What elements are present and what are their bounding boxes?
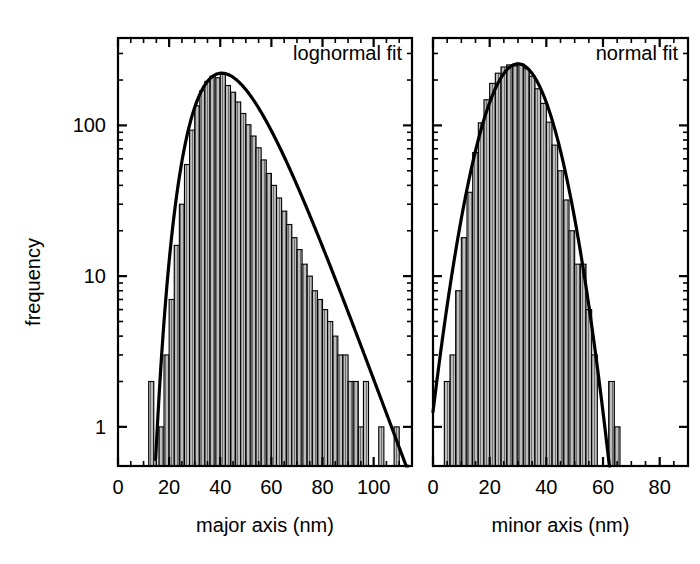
histogram-bar: [282, 211, 287, 466]
histogram-figure: 020406080100major axis (nm)lognormal fit…: [0, 0, 700, 564]
x-tick-label: 60: [592, 476, 614, 498]
histogram-bar: [580, 264, 586, 466]
y-tick-label: 1: [95, 416, 106, 438]
x-tick-label: 60: [260, 476, 282, 498]
histogram-bar: [563, 200, 569, 466]
x-tick-label: 80: [649, 476, 671, 498]
histogram-bar: [535, 89, 541, 466]
histogram-bar: [333, 336, 338, 466]
histogram-bar: [184, 165, 189, 466]
x-tick-label: 0: [427, 476, 438, 498]
x-tick-label: 100: [357, 476, 390, 498]
histogram-bar: [524, 69, 530, 466]
histogram-bar: [292, 238, 297, 466]
histogram-bar: [179, 204, 184, 466]
histogram-bar: [159, 427, 164, 466]
histogram-bar: [174, 245, 179, 466]
histogram-bar: [546, 122, 552, 466]
x-tick-label: 0: [112, 476, 123, 498]
x-tick-label: 80: [311, 476, 333, 498]
figure-root: 020406080100major axis (nm)lognormal fit…: [0, 0, 700, 564]
histogram-bar: [164, 355, 169, 466]
histogram-bar: [529, 76, 535, 466]
histogram-bar: [323, 310, 328, 466]
histogram-bar: [302, 264, 307, 466]
histogram-bar: [271, 185, 276, 466]
histogram-bar: [277, 198, 282, 466]
x-tick-label: 40: [535, 476, 557, 498]
histogram-bar: [358, 427, 363, 466]
histogram-bar: [343, 355, 348, 466]
histogram-bar: [220, 74, 225, 466]
histogram-bar: [484, 100, 490, 466]
y-axis-label: frequency: [22, 238, 44, 326]
histogram-bar: [307, 276, 312, 466]
x-tick-label: 40: [209, 476, 231, 498]
histogram-bar: [251, 136, 256, 466]
histogram-bar: [256, 148, 261, 466]
histogram-bar: [478, 123, 484, 466]
x-axis-label: minor axis (nm): [492, 514, 630, 536]
histogram-bar: [353, 381, 358, 466]
histogram-bar: [328, 322, 333, 467]
histogram-bar: [490, 83, 496, 466]
histogram-bar: [287, 225, 292, 466]
histogram-bar: [507, 65, 513, 466]
histogram-bar: [190, 130, 195, 466]
histogram-bar: [512, 66, 518, 466]
histogram-bar: [338, 355, 343, 466]
histogram-bar: [266, 173, 271, 466]
histogram-bar: [461, 238, 467, 466]
histogram-bar: [444, 381, 450, 466]
histogram-bar: [297, 250, 302, 466]
histogram-bar: [614, 427, 620, 466]
histogram-bar: [569, 231, 575, 466]
histogram-bar: [575, 264, 581, 466]
histogram-bar: [241, 113, 246, 466]
histogram-bar: [246, 125, 251, 466]
histogram-bar: [169, 299, 174, 466]
histogram-bar: [225, 85, 230, 466]
histogram-bar: [558, 171, 564, 466]
histogram-bar: [236, 102, 241, 466]
x-axis-label: major axis (nm): [196, 514, 334, 536]
histogram-bar: [552, 145, 558, 466]
histogram-bar: [518, 64, 524, 466]
histogram-bar: [586, 310, 592, 466]
histogram-bar: [473, 153, 479, 466]
histogram-bar: [215, 78, 220, 466]
histogram-bar: [348, 381, 353, 466]
histogram-bar: [456, 291, 462, 466]
histogram-bar: [363, 381, 368, 466]
histogram-bar: [541, 103, 547, 466]
histogram-bar: [205, 81, 210, 466]
histogram-bar: [230, 92, 235, 466]
histogram-bar: [317, 299, 322, 466]
y-tick-label: 10: [84, 265, 106, 287]
histogram-bar: [379, 427, 384, 466]
histogram-bar: [149, 381, 154, 466]
panel-annotation: normal fit: [596, 42, 679, 64]
panel-annotation: lognormal fit: [293, 42, 402, 64]
x-tick-label: 20: [479, 476, 501, 498]
y-tick-label: 100: [73, 114, 106, 136]
histogram-bar: [495, 73, 501, 466]
histogram-bar: [261, 160, 266, 466]
histogram-bar: [312, 291, 317, 466]
histogram-bar: [501, 67, 507, 466]
x-tick-label: 20: [158, 476, 180, 498]
histogram-bar: [195, 106, 200, 466]
histogram-bar: [200, 91, 205, 466]
histogram-bar: [450, 355, 456, 466]
histogram-bar: [210, 76, 215, 466]
histogram-bar: [467, 192, 473, 466]
